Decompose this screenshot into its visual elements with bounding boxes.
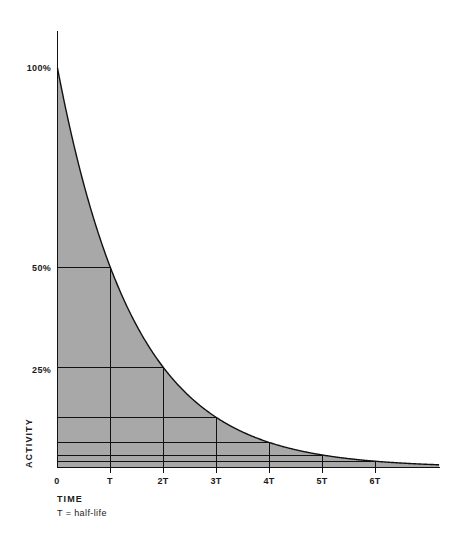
chart-svg: 100% 50% 25% 0 T 2T 3T 4T 5T 6T TIME T =… [0, 0, 459, 535]
y-tick-label-100: 100% [27, 63, 51, 73]
x-tick-label-0: 0 [54, 476, 59, 486]
x-tick-label-1t: T [107, 476, 113, 486]
x-tick-label-4t: 4T [263, 476, 274, 486]
x-tick-label-2t: 2T [157, 476, 168, 486]
decay-chart: 100% 50% 25% 0 T 2T 3T 4T 5T 6T TIME T =… [0, 0, 459, 535]
x-tick-label-5t: 5T [316, 476, 327, 486]
x-axis-title: TIME [57, 494, 83, 504]
y-tick-label-25: 25% [32, 365, 51, 375]
y-tick-label-50: 50% [32, 263, 51, 273]
x-tick-label-6t: 6T [369, 476, 380, 486]
half-life-note: T = half-life [57, 508, 107, 518]
y-axis-title: ACTIVITY [24, 418, 34, 468]
x-tick-label-3t: 3T [210, 476, 221, 486]
